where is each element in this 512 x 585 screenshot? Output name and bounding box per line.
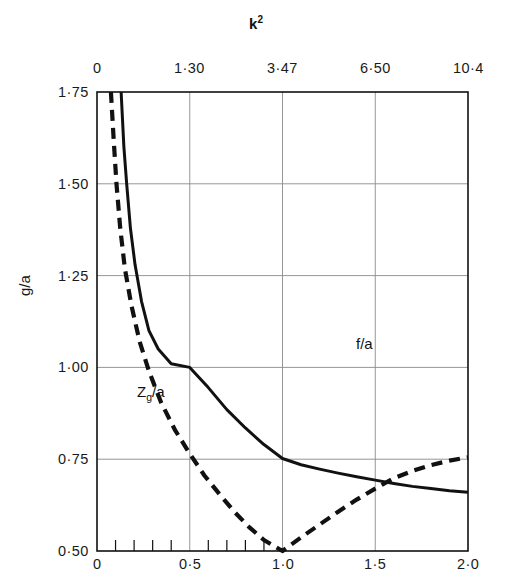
zg-label-base: Z (137, 383, 146, 400)
plot-area (0, 0, 512, 585)
figure-container: k2 g/a 01·303·476·5010·4 00·51·01·52·0 1… (0, 0, 512, 585)
gridlines (97, 92, 468, 551)
curve-label-f-a: f/a (356, 335, 373, 352)
curve-label-zg-a: Zg/a (137, 383, 165, 403)
data-curves (111, 92, 468, 551)
zg-label-tail: /a (152, 383, 165, 400)
